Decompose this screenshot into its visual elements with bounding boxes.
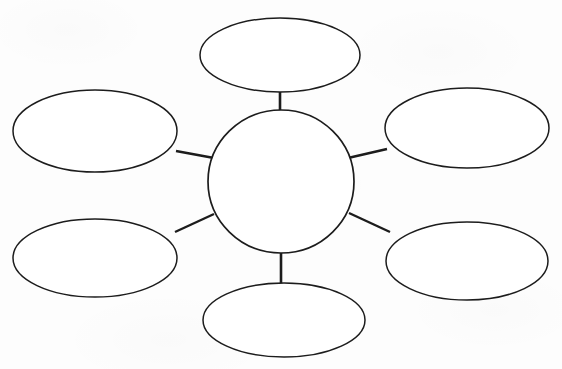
center-node-group: [208, 110, 354, 253]
connector-bottom-left: [175, 214, 214, 232]
branch-node-bottom[interactable]: [203, 283, 365, 357]
worksheet-canvas: [0, 0, 562, 369]
branch-node-bottom-right[interactable]: [386, 222, 548, 300]
connector-top-left: [176, 151, 214, 158]
spider-concept-map: [0, 0, 562, 369]
branch-node-top[interactable]: [200, 18, 360, 92]
center-node[interactable]: [208, 110, 354, 253]
branch-node-top-left[interactable]: [13, 90, 177, 172]
branch-node-bottom-left[interactable]: [13, 219, 177, 297]
connector-top-right: [348, 149, 387, 158]
branch-node-top-right[interactable]: [385, 88, 549, 168]
connector-bottom-right: [349, 213, 390, 232]
